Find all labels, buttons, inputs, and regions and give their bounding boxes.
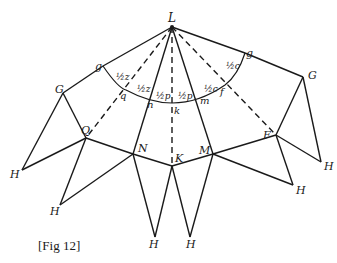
edge-Q-H1 — [22, 138, 86, 170]
edge-F-H5 — [276, 135, 293, 185]
edge-M-H5 — [213, 154, 293, 185]
label-N: N — [137, 142, 148, 155]
label-k: k — [174, 105, 180, 116]
edge-Q-H2 — [60, 138, 86, 205]
label-m: m — [200, 95, 209, 106]
angle-half-c-2: ½c — [226, 61, 240, 71]
label-H5: H — [295, 184, 306, 197]
edge-L-g-right — [172, 27, 245, 53]
dashed-L-F — [172, 27, 276, 135]
dashed-L-Q — [86, 27, 172, 138]
label-f: f — [219, 86, 226, 97]
label-g-left: g — [95, 60, 102, 73]
edge-N-H2 — [60, 154, 133, 205]
label-G-right: G — [308, 69, 317, 82]
edge-M-H4 — [190, 154, 213, 237]
label-F: F — [262, 129, 271, 142]
fig-12-diagram: L g g G G q n k m f Q N K M F H H H H H … — [0, 0, 337, 263]
edge-F-G-right — [276, 77, 303, 135]
edge-G-H1 — [22, 93, 63, 170]
angle-half-z-2: ½z — [137, 84, 151, 94]
label-K: K — [174, 152, 184, 165]
edge-g-G-right — [245, 53, 303, 77]
label-q: q — [120, 90, 126, 101]
apex-point — [170, 25, 174, 29]
edge-K-H4 — [172, 166, 190, 237]
label-H1: H — [9, 168, 20, 181]
angle-half-p-1: ½p — [156, 91, 171, 101]
edge-N-H3 — [133, 154, 155, 237]
edge-N-K — [133, 154, 172, 166]
label-n: n — [147, 99, 153, 110]
angle-half-c-1: ½c — [204, 84, 218, 94]
edge-F-H6 — [276, 135, 321, 162]
label-H3: H — [148, 238, 159, 251]
edge-K-H3 — [155, 166, 172, 237]
label-H2: H — [49, 205, 60, 218]
label-g-right: g — [246, 47, 253, 60]
angle-half-z-1: ½z — [116, 72, 130, 82]
label-H4: H — [185, 238, 196, 251]
label-Q: Q — [81, 124, 90, 137]
label-L: L — [167, 11, 176, 25]
angle-half-p-2: ½p — [178, 91, 193, 101]
edge-G-H6 — [303, 77, 321, 162]
label-M: M — [198, 144, 211, 157]
figure-caption: [Fig 12] — [38, 238, 80, 253]
edge-Q-N — [86, 138, 133, 154]
label-H6: H — [323, 160, 334, 173]
label-G-left: G — [55, 83, 64, 96]
